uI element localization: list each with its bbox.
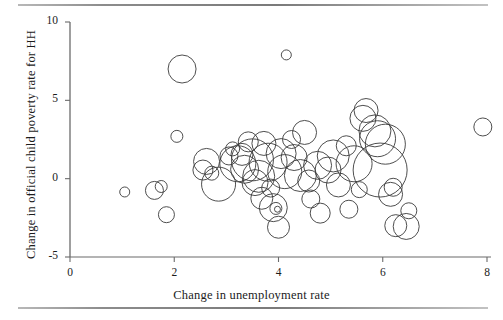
bubble-marker	[354, 99, 378, 123]
bubble-marker	[168, 55, 196, 83]
bubble-marker	[268, 216, 290, 238]
bubble-marker	[281, 50, 291, 60]
bubble-marker	[274, 206, 280, 212]
x-tick-label: 6	[368, 266, 398, 278]
x-axis-title: Change in unemployment rate	[0, 288, 503, 303]
bubble-marker	[340, 200, 358, 218]
bubble-marker	[474, 118, 492, 136]
axis-lines	[70, 22, 491, 257]
x-tick-label: 4	[264, 266, 294, 278]
bubble-series	[120, 50, 492, 240]
bubble-marker	[326, 173, 350, 197]
bubble-marker	[401, 203, 417, 219]
bubble-marker	[220, 147, 238, 165]
bubble-marker	[171, 130, 183, 142]
x-tick-label: 0	[55, 266, 85, 278]
bubble-marker	[393, 213, 419, 239]
y-axis-title: Change in official child poverty rate fo…	[24, 20, 39, 270]
bubble-marker	[310, 203, 330, 223]
bubble-marker	[155, 181, 167, 193]
bubble-marker	[158, 207, 174, 223]
x-axis-ticks	[70, 257, 487, 262]
bubble-marker	[351, 182, 367, 198]
x-tick-label: 2	[159, 266, 189, 278]
bubble-marker	[145, 181, 163, 199]
bubble-chart-figure: -50510 02468 Change in official child po…	[0, 0, 503, 320]
bubble-marker	[302, 190, 320, 208]
y-axis-ticks	[65, 22, 70, 257]
bubble-marker	[293, 120, 317, 144]
bubble-marker	[120, 187, 130, 197]
x-tick-label: 8	[472, 266, 502, 278]
